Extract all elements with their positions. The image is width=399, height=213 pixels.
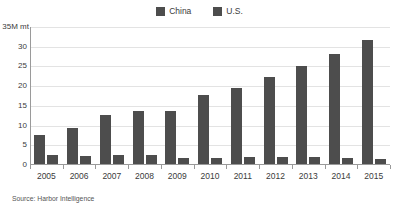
x-axis-tick-label: 2012 [259,171,292,183]
bar[interactable] [198,95,209,164]
y-axis-tick-label: 15 [18,102,27,110]
x-axis-tick [325,165,326,169]
x-axis-labels: 2005200620072008200920102011201220132014… [30,171,390,183]
x-axis-tick-label: 2007 [95,171,128,183]
bar-chart: ChinaU.S. 35M mt302520151050 20052006200… [0,0,399,213]
bar[interactable] [178,158,189,164]
bar-group [194,27,227,164]
bar[interactable] [80,156,91,164]
legend-item-label: China [169,7,191,16]
bar-group [30,27,63,164]
x-axis-tick [194,165,195,169]
legend-item-label: U.S. [226,7,243,16]
x-axis-tick-label: 2013 [292,171,325,183]
x-axis-tick-label: 2011 [226,171,259,183]
y-axis-tick-label: 20 [18,82,27,90]
chart-legend: ChinaU.S. [0,4,399,18]
y-axis-tick-label: 30 [18,43,27,51]
source-note: Source: Harbor Intelligence [12,195,94,203]
bar-series-container [30,27,390,164]
x-axis-tick [390,165,391,169]
bar[interactable] [34,135,45,164]
y-axis-tick-label: 0 [23,161,27,169]
x-axis-tick-label: 2014 [325,171,358,183]
bar[interactable] [264,77,275,164]
bar[interactable] [277,157,288,164]
legend-item-u-s[interactable]: U.S. [213,7,243,16]
y-axis-tick-label: 10 [18,122,27,130]
y-axis-tick-label: 25 [18,62,27,70]
legend-swatch-icon [213,7,222,16]
y-axis-tick-label: 35M mt [2,23,29,31]
bar[interactable] [309,157,320,164]
x-axis-tick-label: 2008 [128,171,161,183]
x-axis-tick [128,165,129,169]
x-axis-tick [95,165,96,169]
bar[interactable] [296,66,307,164]
x-axis-tick-label: 2009 [161,171,194,183]
bar[interactable] [342,158,353,164]
bar-group [259,27,292,164]
bar-group [95,27,128,164]
y-axis-labels: 35M mt302520151050 [0,27,27,165]
x-axis-tick-label: 2010 [194,171,227,183]
plot-area [30,27,390,165]
bar[interactable] [47,155,58,164]
bar[interactable] [146,155,157,164]
bar[interactable] [133,111,144,164]
x-axis-tick [161,165,162,169]
x-axis-tick [259,165,260,169]
bar[interactable] [362,40,373,164]
bar-group [128,27,161,164]
x-axis-tick-label: 2015 [357,171,390,183]
bar[interactable] [211,158,222,164]
x-axis-tick [357,165,358,169]
bar[interactable] [67,128,78,164]
legend-item-china[interactable]: China [156,7,191,16]
x-axis-tick-label: 2005 [30,171,63,183]
bar[interactable] [100,115,111,164]
legend-swatch-icon [156,7,165,16]
bar-group [63,27,96,164]
bar[interactable] [329,54,340,164]
x-axis-tick [30,165,31,169]
bar[interactable] [231,88,242,164]
bar-group [357,27,390,164]
x-axis-tick [63,165,64,169]
bar[interactable] [375,159,386,164]
bar-group [325,27,358,164]
x-axis-tick-label: 2006 [63,171,96,183]
bar-group [161,27,194,164]
bar-group [292,27,325,164]
bar-group [226,27,259,164]
bar[interactable] [113,155,124,164]
x-axis-ticks [30,165,390,170]
y-axis-tick-label: 5 [23,141,27,149]
x-axis-tick [226,165,227,169]
x-axis-tick [292,165,293,169]
bar[interactable] [165,111,176,164]
bar[interactable] [244,157,255,164]
